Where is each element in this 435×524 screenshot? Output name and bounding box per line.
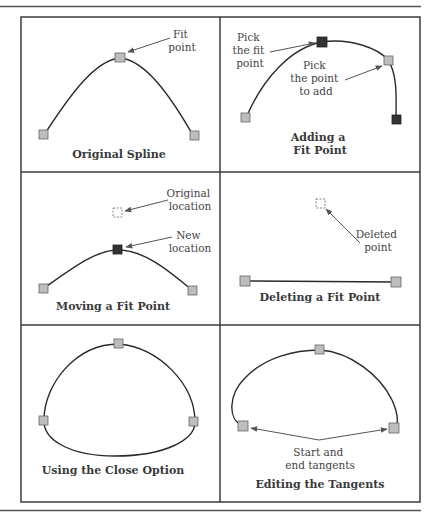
fit-point-start (240, 276, 250, 286)
fit-point-top (315, 345, 324, 354)
callout-arrow (126, 237, 172, 247)
callout-arrow (319, 429, 387, 440)
panel-deleting-fit-point: Deleted point Deleting a Fit Point (240, 199, 401, 304)
panel-caption: Editing the Tangents (255, 478, 384, 491)
tangent-start-point (238, 421, 248, 431)
panel-caption: Using the Close Option (42, 464, 185, 477)
callout-arrow (125, 200, 168, 211)
fit-point-selected (317, 37, 327, 47)
panel-caption: Moving a Fit Point (56, 300, 171, 313)
callout-arrow (251, 428, 319, 440)
deleted-point-marker (316, 199, 325, 208)
fit-point-top (115, 53, 125, 62)
callout-pick-fit-point: Pick the fit point (232, 31, 267, 69)
fit-point-end (391, 277, 401, 287)
callout-arrow (345, 66, 382, 80)
panel-caption: Deleting a Fit Point (260, 291, 382, 304)
fit-point-left (39, 416, 48, 425)
fit-point-end-selected (392, 115, 401, 124)
callout-arrow (128, 38, 170, 52)
panel-moving-fit-point: Original location New location Moving a … (39, 187, 213, 313)
spline-line (246, 281, 395, 282)
fit-point-end (188, 286, 197, 295)
callout-pick-point-to-add: Pick the point to add (290, 59, 341, 97)
tangent-end-point (389, 423, 399, 433)
callout-deleted-point: Deleted point (356, 228, 401, 253)
panel-adding-fit-point: Pick the fit point Pick the point to add… (232, 31, 401, 157)
fit-point-added (384, 56, 393, 65)
panel-close-option: Using the Close Option (39, 339, 198, 477)
original-location-marker (113, 208, 122, 217)
callout-new-location: New location (169, 229, 212, 254)
fit-point-moved (113, 245, 122, 254)
fit-point-start (39, 130, 48, 139)
panel-original-spline: Fit point Original Spline (39, 28, 199, 161)
fit-point-start (39, 284, 48, 293)
callout-arrow (270, 43, 315, 52)
spline-curve (44, 58, 194, 137)
spline-curve (232, 350, 398, 428)
fit-point-right (189, 417, 198, 426)
callout-fit-point: Fit point (168, 28, 196, 53)
panel-caption: Adding a Fit Point (290, 131, 350, 157)
callout-start-end-tangents: Start and end tangents (285, 446, 355, 471)
closed-spline-curve (44, 344, 195, 456)
panel-editing-tangents: Start and end tangents Editing the Tange… (232, 345, 399, 491)
spline-curve (44, 250, 192, 290)
fit-point-start (241, 113, 250, 122)
spline-editing-diagram: Fit point Original Spline Pick the fit p… (0, 0, 435, 524)
fit-point-end (190, 131, 199, 140)
panel-caption: Original Spline (72, 148, 166, 161)
fit-point-top (114, 339, 123, 348)
callout-original-location: Original location (167, 187, 214, 212)
